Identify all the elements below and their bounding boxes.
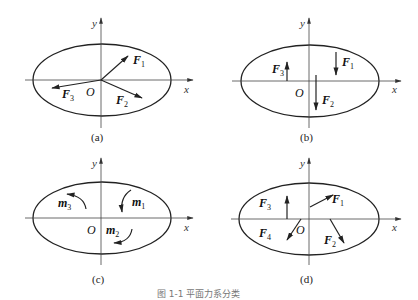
origin-label: O <box>295 86 304 100</box>
x-axis-label: x <box>391 83 397 95</box>
x-axis-label: x <box>391 221 397 233</box>
y-axis-label: y <box>91 17 97 29</box>
label-f2: F2 <box>115 93 128 109</box>
origin-label: O <box>86 85 95 99</box>
figure-caption: 图 1-1 平面力系分类 <box>157 288 240 299</box>
label-f3: F3 <box>258 196 271 212</box>
label-f1: F1 <box>341 55 354 71</box>
label-f3: F3 <box>271 62 284 78</box>
x-axis-label: x <box>183 83 189 95</box>
panel-c: y x O m1 m2 m3 (c) <box>25 157 193 286</box>
panel-caption: (c) <box>92 273 105 286</box>
y-axis-label: y <box>299 157 305 169</box>
x-axis-label: x <box>183 221 189 233</box>
label-f1: F1 <box>331 192 344 208</box>
panel-b: y x O F1 F2 F3 (b) <box>232 17 401 144</box>
origin-label: O <box>87 223 96 237</box>
panel-caption: (a) <box>91 131 104 144</box>
panel-caption: (b) <box>300 131 313 144</box>
force-arrow-f1 <box>310 195 333 207</box>
force-system-diagram: y x O F1 F2 F3 (a) y x O F1 F2 F3 (b) y … <box>0 0 418 300</box>
y-axis-label: y <box>299 17 305 29</box>
panel-caption: (d) <box>300 273 313 286</box>
label-f1: F1 <box>132 53 145 69</box>
label-m1: m1 <box>132 195 145 211</box>
label-m2: m2 <box>106 223 119 239</box>
force-arrow-f1 <box>101 56 128 80</box>
label-f2: F2 <box>323 233 336 249</box>
moment-arrow-m1 <box>122 190 131 212</box>
panel-a: y x O F1 F2 F3 (a) <box>25 17 193 144</box>
label-m3: m3 <box>58 196 71 212</box>
panel-d: y x O F1 F2 F3 F4 (d) <box>231 157 401 286</box>
y-axis-label: y <box>91 157 97 169</box>
label-f2: F2 <box>321 93 334 109</box>
label-f4: F4 <box>258 226 271 242</box>
label-f3: F3 <box>61 87 74 103</box>
